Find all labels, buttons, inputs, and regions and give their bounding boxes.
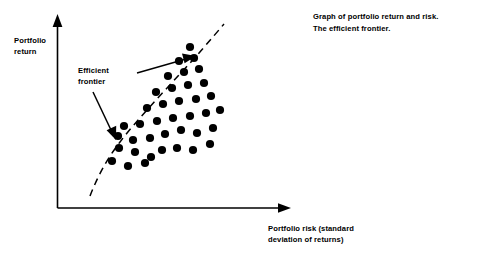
scatter-point <box>186 43 194 51</box>
scatter-point <box>190 54 198 62</box>
scatter-point <box>124 162 132 170</box>
scatter-point <box>202 109 210 117</box>
scatter-point <box>158 146 166 154</box>
scatter-point <box>207 92 215 100</box>
scatter-point <box>147 153 155 161</box>
scatter-point <box>159 100 167 108</box>
scatter-point <box>143 104 151 112</box>
scatter-point <box>153 117 161 125</box>
scatter-point <box>152 88 160 96</box>
scatter-point <box>193 129 201 137</box>
x-axis <box>58 203 292 213</box>
scatter-point <box>177 126 185 134</box>
efficient-frontier-annotation-label: Efficient frontier <box>78 66 138 88</box>
scatter-points-group <box>108 43 224 170</box>
scatter-point <box>115 144 123 152</box>
scatter-point <box>108 157 116 165</box>
x-axis-label: Portfolio risk (standard deviation of re… <box>268 224 438 246</box>
scatter-point <box>164 72 172 80</box>
scatter-point <box>173 144 181 152</box>
scatter-point <box>184 81 192 89</box>
scatter-point <box>189 146 197 154</box>
scatter-point <box>131 148 139 156</box>
scatter-point <box>136 120 144 128</box>
scatter-point <box>169 114 177 122</box>
scatter-point <box>146 134 154 142</box>
scatter-point <box>168 84 176 92</box>
scatter-point <box>180 68 188 76</box>
scatter-point <box>195 65 203 73</box>
efficient-frontier-figure: Graph of portfolio return and risk. The … <box>0 0 477 254</box>
scatter-point <box>175 57 183 65</box>
scatter-point <box>141 159 149 167</box>
scatter-point <box>114 132 122 140</box>
scatter-point <box>200 79 208 87</box>
scatter-point <box>186 112 194 120</box>
scatter-point <box>192 95 200 103</box>
y-axis-label: Portfolio return <box>14 36 74 58</box>
scatter-point <box>175 97 183 105</box>
scatter-point <box>216 106 224 114</box>
scatter-point <box>161 130 169 138</box>
frontier-pointer-lower <box>93 92 116 140</box>
figure-caption: Graph of portfolio return and risk. The … <box>313 11 473 36</box>
scatter-point <box>129 136 137 144</box>
scatter-point <box>120 122 128 130</box>
scatter-point <box>209 124 217 132</box>
scatter-point <box>206 140 214 148</box>
